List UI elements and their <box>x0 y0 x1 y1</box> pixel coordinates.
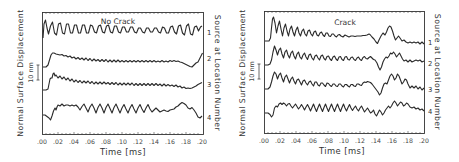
figure: .00 .02 .04 .06 .08 .10 .12 .14 .16 .18 … <box>0 0 459 162</box>
trace-label: 1 <box>428 39 432 47</box>
right-axis-label: Source at Location Number <box>433 14 442 131</box>
trace-4 <box>43 103 202 121</box>
scale-bar-label: 10 nm <box>27 62 35 82</box>
trace-label: 1 <box>207 29 211 37</box>
trace-label: 3 <box>207 81 211 89</box>
x-axis-label: Time [ms] <box>99 147 146 157</box>
trace-4 <box>265 101 424 117</box>
x-tick: .20 <box>197 138 207 145</box>
right-axis-label: Source at Location Number <box>213 15 222 132</box>
x-tick-labels: .00 .02 .04 .06 .08 .10 .12 .14 .16 .18 … <box>37 138 207 145</box>
plot-frame <box>43 13 204 135</box>
plot-title: No Crack <box>101 17 136 26</box>
x-tick: .10 <box>117 138 127 145</box>
x-tick: .12 <box>355 137 365 144</box>
x-tick: .12 <box>133 138 143 145</box>
x-tick: .06 <box>85 138 95 145</box>
trace-label: 4 <box>428 108 432 116</box>
x-tick: .14 <box>371 137 381 144</box>
x-tick: .06 <box>307 137 317 144</box>
plot-title: Crack <box>334 18 356 27</box>
x-tick: .00 <box>37 138 47 145</box>
x-tick: .08 <box>323 137 333 144</box>
x-tick: .02 <box>53 138 63 145</box>
plot-frame <box>265 12 425 134</box>
x-tick: .18 <box>403 137 413 144</box>
trace-label: 2 <box>428 60 432 68</box>
x-tick: .00 <box>259 137 269 144</box>
scale-bar-label: 10 nm <box>248 61 256 81</box>
y-axis-label: Normal Surface Displacement <box>16 9 25 136</box>
trace-label: 4 <box>207 114 211 122</box>
trace-3 <box>265 72 424 95</box>
x-tick: .20 <box>419 137 429 144</box>
trace-3 <box>43 73 202 90</box>
trace-label: 3 <box>428 86 432 94</box>
x-tick-labels: .00 .02 .04 .06 .08 .10 .12 .14 .16 .18 … <box>259 137 429 144</box>
x-tick: .16 <box>387 137 397 144</box>
x-tick: .16 <box>165 138 175 145</box>
trace-label: 2 <box>207 55 211 63</box>
x-tick: .04 <box>69 138 79 145</box>
x-tick: .10 <box>339 137 349 144</box>
x-tick: .18 <box>181 138 191 145</box>
trace-2 <box>265 46 424 70</box>
scale-bar: 10 nm <box>248 61 261 81</box>
scale-bar: 10 nm <box>27 62 40 82</box>
x-axis-label: Time [ms] <box>318 146 365 156</box>
plot-crack: .00 .02 .04 .06 .08 .10 .12 .14 .16 .18 … <box>238 9 442 156</box>
trace-2 <box>43 53 203 67</box>
x-tick: .04 <box>291 137 301 144</box>
y-axis-label: Normal Surface Displacement <box>238 9 247 136</box>
plot-no-crack: .00 .02 .04 .06 .08 .10 .12 .14 .16 .18 … <box>16 9 222 157</box>
x-tick: .02 <box>275 137 285 144</box>
x-tick: .14 <box>149 138 159 145</box>
x-tick: .08 <box>101 138 111 145</box>
